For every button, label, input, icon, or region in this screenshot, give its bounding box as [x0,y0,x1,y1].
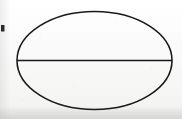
figure-canvas: Ellipse bisected by its horizontal major… [0,0,182,119]
ink-mark-left-margin-shape [1,25,5,32]
ellipse-diagram [0,0,182,119]
